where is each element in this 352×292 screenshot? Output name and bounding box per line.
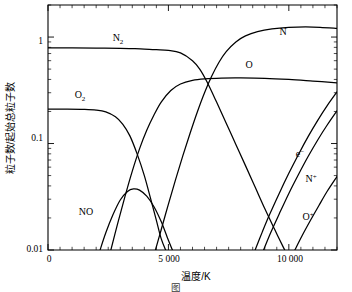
x-tick-label-10000: 10 000 (277, 254, 303, 264)
y-tick-label-1: 1 (38, 36, 43, 46)
curve-O (111, 78, 337, 251)
y-axis-title: 粒子数/起始总粒子数 (4, 82, 16, 175)
label-n2: N2 (113, 32, 124, 46)
figure-container: 0 5 000 10 000 1 0.1 0.01 温度/K 粒子数/起始总粒子… (0, 0, 352, 292)
label-n-plus: N+ (305, 173, 316, 185)
x-tick-label-5000: 5 000 (158, 254, 180, 264)
curve-N2 (48, 48, 290, 260)
composition-chart: 0 5 000 10 000 1 0.1 0.01 温度/K 粒子数/起始总粒子… (0, 0, 352, 292)
curve-e- (255, 92, 337, 250)
curve-O+ (295, 177, 337, 250)
curve-labels: N2 O2 NO N O e− N+ O+ (75, 26, 317, 222)
x-tick-label-0: 0 (47, 254, 52, 264)
label-o2: O2 (75, 89, 86, 103)
curves-group (48, 27, 337, 260)
y-tick-label-0.01: 0.01 (26, 244, 43, 254)
label-no: NO (79, 206, 93, 217)
label-o-plus: O+ (302, 211, 313, 223)
label-o: O (245, 59, 252, 70)
y-tick-label-0.1: 0.1 (31, 133, 43, 143)
label-electron: e− (296, 148, 304, 160)
label-n: N (279, 26, 286, 37)
x-axis-title: 温度/K (181, 270, 211, 282)
figure-caption: 图 (171, 282, 181, 292)
